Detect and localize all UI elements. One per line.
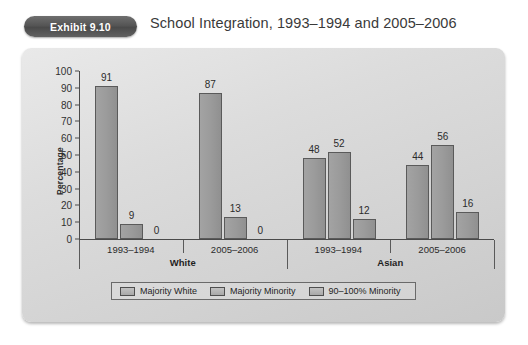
exhibit-number-badge: Exhibit 9.10 [24, 16, 137, 37]
bar [431, 145, 454, 239]
legend-label: 90–100% Minority [329, 286, 401, 296]
bar-value-label: 52 [333, 138, 344, 149]
x-axis-group-label: Asian [377, 257, 403, 268]
y-axis-tick-label: 50 [46, 150, 72, 161]
bar-value-label: 56 [437, 131, 448, 142]
bar-value-label: 48 [308, 144, 319, 155]
y-axis-tick-label: 70 [46, 116, 72, 127]
x-axis-separator [287, 240, 288, 269]
x-axis-line [79, 239, 494, 240]
bar-value-label: 87 [205, 79, 216, 90]
y-axis-tick-label: 40 [46, 166, 72, 177]
bar-value-label: 0 [257, 225, 263, 236]
y-axis-tick-label: 60 [46, 133, 72, 144]
y-axis-line [79, 71, 80, 240]
page-title: School Integration, 1993–1994 and 2005–2… [150, 15, 457, 31]
bar-value-label: 91 [101, 72, 112, 83]
y-axis-tick-label: 90 [46, 82, 72, 93]
bar-value-label: 13 [230, 203, 241, 214]
legend-swatch-icon [120, 287, 135, 296]
x-axis-category-label: 1993–1994 [107, 244, 155, 255]
y-axis-tick-label: 100 [46, 66, 72, 77]
bar [406, 165, 429, 239]
bar [456, 212, 479, 239]
bar [95, 86, 118, 239]
bar [328, 152, 351, 239]
y-axis-tick-label: 20 [46, 200, 72, 211]
chart-card: Percentage 1009080706050403020100 919087… [22, 48, 505, 322]
bar-value-label: 12 [358, 205, 369, 216]
x-axis-separator [494, 240, 495, 269]
legend-label: Majority White [140, 286, 197, 296]
legend-swatch-icon [210, 287, 225, 296]
y-axis-tick-label: 10 [46, 217, 72, 228]
x-axis-group-label: White [170, 257, 196, 268]
bar [120, 224, 143, 239]
bar [303, 158, 326, 239]
bar-value-label: 9 [129, 210, 135, 221]
legend-item: Majority Minority [210, 286, 296, 296]
x-axis-separator [79, 240, 80, 269]
legend-item: Majority White [120, 286, 197, 296]
bar [199, 93, 222, 239]
chart-plot: Percentage 1009080706050403020100 919087… [22, 48, 505, 322]
x-axis-category-label: 2005–2006 [211, 244, 259, 255]
exhibit-header: Exhibit 9.10 School Integration, 1993–19… [0, 0, 528, 48]
legend-label: Majority Minority [230, 286, 296, 296]
chart-legend: Majority WhiteMajority Minority90–100% M… [111, 282, 416, 300]
x-axis-category-label: 1993–1994 [315, 244, 363, 255]
x-axis-separator [390, 240, 391, 253]
x-axis-category-label: 2005–2006 [418, 244, 466, 255]
y-axis-tick-label: 0 [46, 234, 72, 245]
y-axis-tick-label: 80 [46, 99, 72, 110]
bar [224, 217, 247, 239]
bar [353, 219, 376, 239]
bar-value-label: 16 [462, 198, 473, 209]
chart-page: Exhibit 9.10 School Integration, 1993–19… [0, 0, 528, 345]
bar-value-label: 0 [154, 225, 160, 236]
legend-swatch-icon [309, 287, 324, 296]
y-axis-tick-label: 30 [46, 183, 72, 194]
bar-value-label: 44 [412, 151, 423, 162]
x-axis-separator [183, 240, 184, 253]
legend-item: 90–100% Minority [309, 286, 401, 296]
